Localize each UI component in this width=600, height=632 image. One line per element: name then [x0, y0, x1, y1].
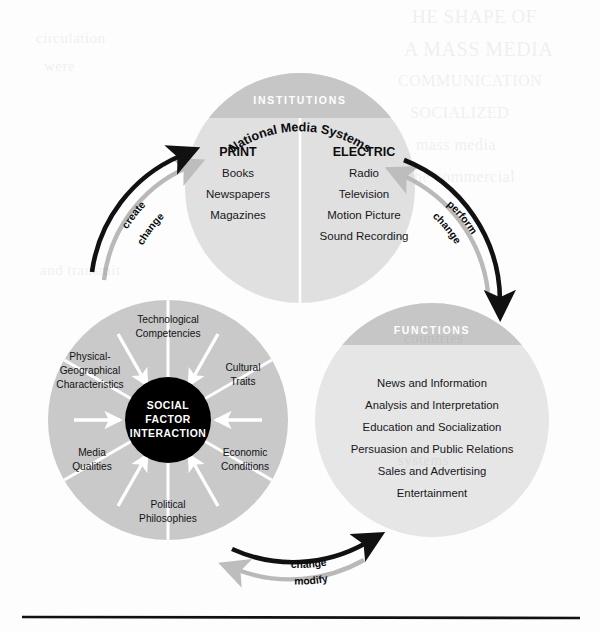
page-baseline-rule — [22, 617, 580, 618]
flow-label-left-secondary: change — [135, 210, 166, 246]
segment-label-line: Competencies — [135, 328, 200, 339]
electric-item: Radio — [349, 167, 379, 179]
electric-item: Motion Picture — [327, 209, 401, 221]
print-item: Newspapers — [206, 188, 270, 200]
hub-line: SOCIAL — [147, 400, 189, 411]
flow-label-left-primary: create — [120, 199, 148, 231]
functions-circle[interactable]: FUNCTIONS News and Information Analysis … — [315, 303, 549, 537]
segment-label-line: Traits — [230, 376, 255, 387]
print-item: Books — [222, 167, 254, 179]
flow-label-bottom-primary: change — [291, 556, 328, 570]
segment-label-line: Cultural — [225, 362, 260, 373]
institutions-circle[interactable]: INSTITUTIONS PRINT Books Newspapers Maga… — [185, 73, 415, 303]
functions-item: News and Information — [377, 377, 487, 389]
segment-label-line: Political — [150, 499, 185, 510]
functions-item: Education and Socialization — [363, 421, 502, 433]
flow-arrow-left-secondary — [104, 168, 186, 280]
functions-item: Analysis and Interpretation — [365, 399, 499, 411]
flow-label-bottom-secondary: modify — [294, 573, 329, 587]
segment-label-line: Physical- — [69, 351, 110, 362]
media-systems-diagram: INSTITUTIONS PRINT Books Newspapers Maga… — [0, 0, 600, 632]
segment-label-line: Qualities — [72, 461, 112, 472]
segment-label-line: Philosophies — [139, 513, 197, 524]
electric-item: Sound Recording — [320, 230, 409, 242]
diagram-scene: HE SHAPE OF A MASS MEDIA COMMUNICATION S… — [0, 0, 600, 632]
institutions-cap-label: INSTITUTIONS — [253, 94, 346, 106]
hub-line: FACTOR — [145, 414, 191, 425]
functions-item: Persuasion and Public Relations — [351, 443, 514, 455]
functions-item: Entertainment — [397, 487, 468, 499]
functions-item: Sales and Advertising — [378, 465, 487, 477]
segment-label-line: Economic — [223, 447, 268, 458]
hub-line: INTERACTION — [130, 428, 207, 439]
segment-label-line: Technological — [137, 314, 199, 325]
social-factor-wheel[interactable]: SOCIAL FACTOR INTERACTION Technological … — [48, 294, 288, 546]
print-item: Magazines — [210, 209, 266, 221]
segment-label-line: Conditions — [221, 461, 269, 472]
segment-label-line: Geographical — [60, 365, 121, 376]
segment-label-line: Characteristics — [56, 379, 123, 390]
segment-label-line: Media — [78, 447, 106, 458]
electric-item: Television — [339, 188, 390, 200]
functions-cap-label: FUNCTIONS — [394, 324, 471, 336]
